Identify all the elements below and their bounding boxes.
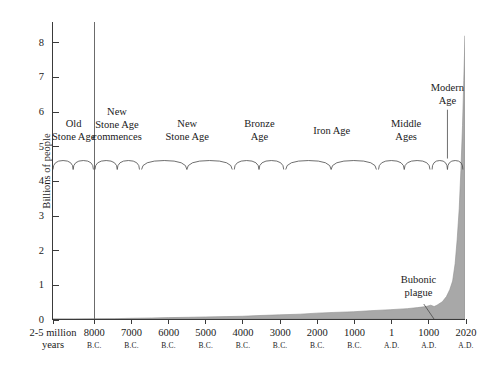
x-tick-era: B.C. [195, 340, 216, 352]
y-tick-mark [53, 42, 59, 43]
x-tick-mark [94, 319, 95, 324]
x-tick-era: B.C. [158, 340, 179, 352]
y-tick-mark [53, 250, 59, 251]
x-tick-mark [391, 319, 392, 324]
leader-line-bubonic-plague [424, 304, 436, 319]
era-label-line: Bronze [244, 118, 274, 131]
era-label-line: Age [431, 95, 464, 108]
annotation-bubonic-plague: Bubonicplague [401, 274, 437, 299]
x-tick-era: B.C. [121, 340, 142, 352]
era-label-line: Stone Age [52, 131, 95, 144]
x-tick-mark [53, 319, 54, 324]
x-tick-label: 1000A.D. [418, 327, 439, 352]
y-tick-mark [53, 216, 59, 217]
era-label-line: Age [244, 131, 274, 144]
era-label-line: Middle [391, 118, 421, 131]
x-tick-label: 2020A.D. [456, 327, 477, 352]
x-tick-mark [428, 319, 429, 324]
y-tick-mark [53, 181, 59, 182]
x-tick-era: A.D. [418, 340, 439, 352]
x-tick-label: 8000B.C. [84, 327, 105, 352]
x-tick-era: B.C. [307, 340, 328, 352]
era-label-line: Stone Age [92, 119, 142, 132]
era-label-new-stone-age-commences: NewStone Agecommences [92, 106, 142, 144]
era-label-bronze-age: BronzeAge [244, 118, 274, 143]
y-tick-label: 3 [39, 209, 44, 222]
x-tick-label: 2-5 millionyears [30, 327, 77, 351]
era-label-line: Iron Age [313, 125, 350, 138]
x-tick-mark [205, 319, 206, 324]
x-tick-label: 1000B.C. [344, 327, 365, 352]
y-tick-label: 8 [39, 36, 44, 49]
x-tick-mark [131, 319, 132, 324]
y-tick-mark [53, 77, 59, 78]
era-label-line: New [165, 118, 208, 131]
x-tick-era: A.D. [384, 340, 399, 352]
x-tick-label: 2000B.C. [307, 327, 328, 352]
y-tick-label: 6 [39, 105, 44, 118]
era-label-new-stone-age: NewStone Age [165, 118, 208, 143]
era-label-line: New [92, 106, 142, 119]
era-label-old-stone-age: OldStone Age [52, 118, 95, 143]
x-tick-mark [466, 319, 467, 324]
y-axis-title: Billions of people [41, 133, 52, 208]
y-tick-label: 7 [39, 70, 44, 83]
annotation-line: Bubonic [401, 274, 437, 287]
x-tick-label: 1A.D. [384, 327, 399, 352]
era-label-line: Ages [391, 131, 421, 144]
era-label-modern-age: ModernAge [431, 82, 464, 107]
y-tick-label: 2 [39, 244, 44, 257]
chart-plot-area: OldStone AgeNewStone AgecommencesNewSton… [52, 22, 465, 320]
era-label-line: commences [92, 131, 142, 144]
x-tick-label: 3000B.C. [270, 327, 291, 352]
era-label-middle-ages: MiddleAges [391, 118, 421, 143]
y-tick-mark [53, 285, 59, 286]
x-tick-mark [280, 319, 281, 324]
y-tick-mark [53, 146, 59, 147]
x-tick-mark [354, 319, 355, 324]
annotation-line: plague [401, 287, 437, 300]
x-tick-label: 4000B.C. [232, 327, 253, 352]
era-label-iron-age: Iron Age [313, 125, 350, 138]
y-tick-label: 0 [39, 313, 44, 326]
x-tick-label: 5000B.C. [195, 327, 216, 352]
x-tick-label: 6000B.C. [158, 327, 179, 352]
y-tick-label: 1 [39, 278, 44, 291]
y-tick-mark [53, 112, 59, 113]
era-label-line: Modern [431, 82, 464, 95]
x-tick-era: B.C. [270, 340, 291, 352]
era-label-line: Stone Age [165, 131, 208, 144]
x-tick-mark [168, 319, 169, 324]
x-tick-era: B.C. [344, 340, 365, 352]
x-tick-mark [317, 319, 318, 324]
x-tick-mark [242, 319, 243, 324]
x-tick-era: B.C. [232, 340, 253, 352]
x-tick-era: A.D. [456, 340, 477, 352]
x-tick-era: years [30, 339, 77, 351]
era-label-line: Old [52, 118, 95, 131]
x-tick-era: B.C. [84, 340, 105, 352]
y-tick-mark [53, 320, 59, 321]
x-tick-label: 7000B.C. [121, 327, 142, 352]
